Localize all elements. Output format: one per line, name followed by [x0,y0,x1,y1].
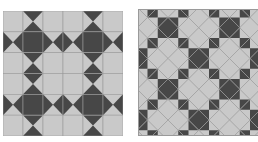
quilt-block [83,115,103,136]
quilt-block [43,32,63,53]
quilt-block [63,74,83,95]
quilt-block [63,53,83,74]
quilt-block [103,94,123,115]
quilt-block [43,53,63,74]
quilt-block [43,74,63,95]
quilt-block [103,115,123,136]
quilt-right-on-point [138,9,258,136]
quilt-block [43,94,63,115]
quilt-block [23,74,43,95]
quilt-block [3,94,23,115]
quilt-left-straight-set [3,11,123,136]
quilt-block [103,53,123,74]
quilt-block [63,94,83,115]
quilt-block [23,53,43,74]
quilt-block [43,115,63,136]
quilt-block [3,53,23,74]
quilt-block [83,11,103,32]
quilt-block [3,32,23,53]
quilt-block [63,11,83,32]
quilt-block [43,11,63,32]
quilt-block [3,11,23,32]
quilt-block [63,32,83,53]
quilt-block [83,32,103,53]
quilt-block [23,32,43,53]
quilt-block [63,115,83,136]
quilt-block [83,53,103,74]
quilt-block [83,74,103,95]
quilt-block [103,74,123,95]
quilt-block [103,32,123,53]
quilt-block [103,11,123,32]
quilt-block [3,115,23,136]
quilt-block [23,11,43,32]
quilt-right-svg [138,9,258,136]
quilt-left-svg [3,11,123,136]
quilt-block [3,74,23,95]
quilt-block [83,94,103,115]
quilt-block [23,115,43,136]
quilt-block [23,94,43,115]
